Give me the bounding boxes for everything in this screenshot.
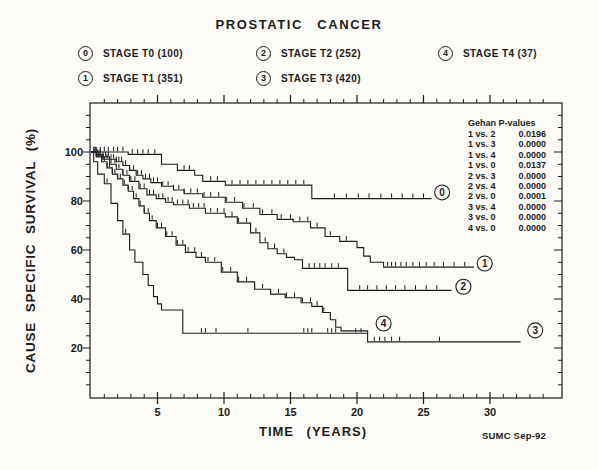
curve-end-number-stage-t4: 4 — [381, 318, 387, 329]
gehan-row: 1 vs. 30.0000 — [468, 139, 546, 149]
gehan-p: 0.0001 — [518, 191, 546, 201]
gehan-p: 0.0137 — [518, 160, 546, 170]
gehan-row: 2 vs. 30.0000 — [468, 171, 546, 181]
y-tick-label: 100 — [65, 146, 83, 158]
curve-end-number-stage-t3: 3 — [532, 325, 538, 336]
gehan-p: 0.0000 — [518, 139, 546, 149]
curve-stage-t4 — [91, 152, 368, 333]
x-tick-label: 5 — [154, 406, 160, 418]
gehan-p: 0.0196 — [518, 129, 546, 139]
gehan-row: 3 vs. 40.0000 — [468, 202, 546, 212]
gehan-row: 1 vs. 20.0196 — [468, 129, 546, 139]
gehan-p: 0.0000 — [518, 181, 546, 191]
gehan-pair: 1 vs. 4 — [468, 150, 496, 160]
x-axis-label: TIME (YEARS) — [163, 424, 463, 439]
curve-end-number-stage-t1: 1 — [482, 258, 488, 269]
curve-stage-t3 — [91, 152, 521, 342]
curve-end-number-stage-t0: 0 — [439, 187, 445, 198]
x-tick-label: 20 — [351, 406, 363, 418]
gehan-p: 0.0000 — [518, 150, 546, 160]
gehan-row: 3 vs. 00.0000 — [468, 212, 546, 222]
gehan-p: 0.0000 — [518, 202, 546, 212]
gehan-row: 2 vs. 40.0000 — [468, 181, 546, 191]
gehan-p: 0.0000 — [518, 223, 546, 233]
censor-ticks-stage-t1 — [95, 147, 465, 266]
credit-stamp: SUMC Sep-92 — [482, 430, 546, 441]
gehan-row: 4 vs. 00.0000 — [468, 223, 546, 233]
gehan-pair: 2 vs. 3 — [468, 171, 496, 181]
gehan-row: 1 vs. 40.0000 — [468, 150, 546, 160]
y-tick-label: 20 — [71, 342, 83, 354]
curve-end-number-stage-t2: 2 — [461, 281, 467, 292]
gehan-row: 1 vs. 00.0137 — [468, 160, 546, 170]
curve-stage-t2 — [91, 152, 451, 290]
figure-prostatic-cancer-survival: PROSTATIC CANCER 0STAGE T0 (100)1STAGE T… — [0, 0, 598, 470]
x-tick-label: 10 — [218, 406, 230, 418]
gehan-pair: 2 vs. 4 — [468, 181, 496, 191]
y-tick-label: 40 — [71, 293, 83, 305]
gehan-pair: 1 vs. 0 — [468, 160, 496, 170]
y-tick-label: 80 — [71, 195, 83, 207]
gehan-pair: 1 vs. 2 — [468, 129, 496, 139]
gehan-pair: 2 vs. 0 — [468, 191, 496, 201]
x-tick-label: 15 — [284, 406, 296, 418]
y-tick-label: 60 — [71, 244, 83, 256]
gehan-pvalues-panel: Gehan P-values 1 vs. 20.01961 vs. 30.000… — [468, 118, 546, 233]
y-axis-label: CAUSE SPECIFIC SURVIVAL (%) — [23, 91, 40, 411]
survival-plot: 510152025302040608010001234 — [0, 0, 598, 470]
x-tick-label: 30 — [484, 406, 496, 418]
gehan-pair: 1 vs. 3 — [468, 139, 496, 149]
gehan-row: 2 vs. 00.0001 — [468, 191, 546, 201]
x-tick-label: 25 — [417, 406, 429, 418]
gehan-p: 0.0000 — [518, 212, 546, 222]
censor-ticks-stage-t2 — [95, 147, 437, 290]
gehan-pair: 3 vs. 4 — [468, 202, 496, 212]
gehan-pair: 4 vs. 0 — [468, 223, 496, 233]
gehan-header: Gehan P-values — [468, 118, 546, 128]
gehan-rows: 1 vs. 20.01961 vs. 30.00001 vs. 40.00001… — [468, 129, 546, 233]
gehan-pair: 3 vs. 0 — [468, 212, 496, 222]
gehan-p: 0.0000 — [518, 171, 546, 181]
